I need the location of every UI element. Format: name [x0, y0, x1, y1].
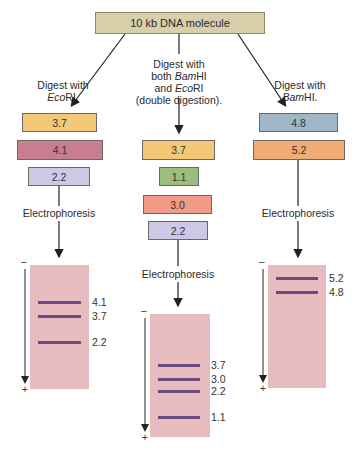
band-label: 2.2 [92, 336, 107, 348]
ecori-digest-label: Digest with EcoRI. [18, 79, 108, 103]
positive-pole: + [260, 383, 266, 394]
band-label: 4.1 [92, 296, 107, 308]
negative-pole: – [141, 305, 147, 316]
gel-band [276, 277, 318, 280]
negative-pole: – [21, 256, 27, 267]
band-label: 5.2 [329, 272, 344, 284]
band-label: 4.8 [329, 286, 344, 298]
band-label: 2.2 [211, 385, 226, 397]
electrophoresis-label-middle: Electrophoresis [128, 268, 228, 280]
fragment-ecori-4.1: 4.1 [17, 140, 103, 160]
gel-bamhi [268, 265, 326, 388]
gel-band [158, 390, 200, 393]
digest-label-line: Digest with [18, 79, 108, 91]
band-label: 1.1 [211, 411, 226, 423]
band-label: 3.7 [211, 359, 226, 371]
bamhi-digest-label: Digest with BamHI. [255, 79, 345, 103]
digest-label-line: Digest with [129, 58, 229, 70]
digest-label-enzyme: EcoRI. [18, 91, 108, 103]
band-label: 3.0 [211, 373, 226, 385]
gel-band [158, 416, 200, 419]
digest-label-line: Digest with [255, 79, 345, 91]
dna-molecule-box: 10 kb DNA molecule [95, 12, 265, 34]
digest-label-line: (double digestion). [129, 94, 229, 106]
gel-band [158, 378, 200, 381]
gel-band [38, 315, 81, 318]
fragment-double-3.7: 3.7 [142, 140, 215, 160]
negative-pole: – [259, 256, 265, 267]
band-label: 3.7 [92, 310, 107, 322]
fragment-double-2.2: 2.2 [148, 221, 208, 240]
fragment-bamhi-5.2: 5.2 [253, 140, 345, 160]
digest-label-line: and EcoRI [129, 82, 229, 94]
electrophoresis-label-left: Electrophoresis [9, 207, 109, 219]
double-digest-label: Digest with both BamHI and EcoRI (double… [129, 58, 229, 106]
positive-pole: + [22, 384, 28, 395]
gel-band [158, 364, 200, 367]
fragment-double-3.0: 3.0 [143, 195, 212, 214]
electrophoresis-label-right: Electrophoresis [248, 207, 348, 219]
positive-pole: + [142, 432, 148, 443]
fragment-ecori-2.2: 2.2 [28, 167, 90, 186]
fragment-ecori-3.7: 3.7 [22, 113, 97, 132]
digest-label-line: both BamHI [129, 70, 229, 82]
fragment-bamhi-4.8: 4.8 [259, 113, 338, 132]
gel-ecori [30, 265, 89, 389]
digest-label-enzyme: BamHI. [255, 91, 345, 103]
fragment-double-1.1: 1.1 [159, 167, 199, 186]
gel-band [38, 341, 81, 344]
gel-band [276, 291, 318, 294]
gel-band [38, 301, 81, 304]
